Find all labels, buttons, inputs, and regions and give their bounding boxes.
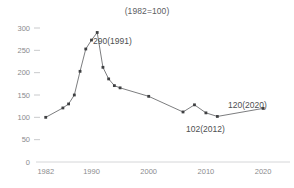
data-point-marker xyxy=(67,103,70,106)
x-tick-label: 2000 xyxy=(140,167,157,176)
data-point-marker xyxy=(102,66,105,69)
y-tick-label: 200 xyxy=(17,68,30,77)
y-axis-tick-labels: 050100150200250300 xyxy=(17,24,30,167)
x-tick-label: 2020 xyxy=(255,167,272,176)
data-point-marker xyxy=(79,70,82,73)
y-tick-label: 100 xyxy=(17,113,30,122)
x-tick-label: 1982 xyxy=(37,167,54,176)
y-tick-label: 50 xyxy=(22,135,30,144)
y-axis-tick-marks xyxy=(34,28,40,140)
x-axis-tick-labels: 19821990200020102020 xyxy=(37,167,271,176)
x-tick-label: 2010 xyxy=(198,167,215,176)
annotation-low-value: 102(2012) xyxy=(186,124,225,134)
y-tick-label: 150 xyxy=(17,91,30,100)
data-point-marker xyxy=(96,31,99,34)
data-point-marker xyxy=(119,86,122,89)
y-tick-label: 250 xyxy=(17,46,30,55)
data-point-marker xyxy=(182,111,185,114)
x-tick-label: 1990 xyxy=(83,167,100,176)
data-point-marker xyxy=(61,107,64,110)
data-point-marker xyxy=(205,111,208,114)
data-point-marker xyxy=(73,94,76,97)
data-point-marker xyxy=(147,95,150,98)
line-chart-plot: 050100150200250300 19821990200020102020 xyxy=(0,0,294,188)
annotation-last-value: 120(2020) xyxy=(228,100,267,110)
data-point-marker xyxy=(107,78,110,81)
y-tick-label: 0 xyxy=(26,158,30,167)
data-point-marker xyxy=(193,103,196,106)
annotation-peak-value: 290(1991) xyxy=(93,36,132,46)
data-point-marker xyxy=(44,116,47,119)
chart-container: (1982=100) 050100150200250300 1982199020… xyxy=(0,0,294,188)
data-point-marker xyxy=(84,48,87,51)
data-point-marker xyxy=(216,115,219,118)
y-tick-label: 300 xyxy=(17,24,30,33)
data-point-marker xyxy=(113,84,116,87)
